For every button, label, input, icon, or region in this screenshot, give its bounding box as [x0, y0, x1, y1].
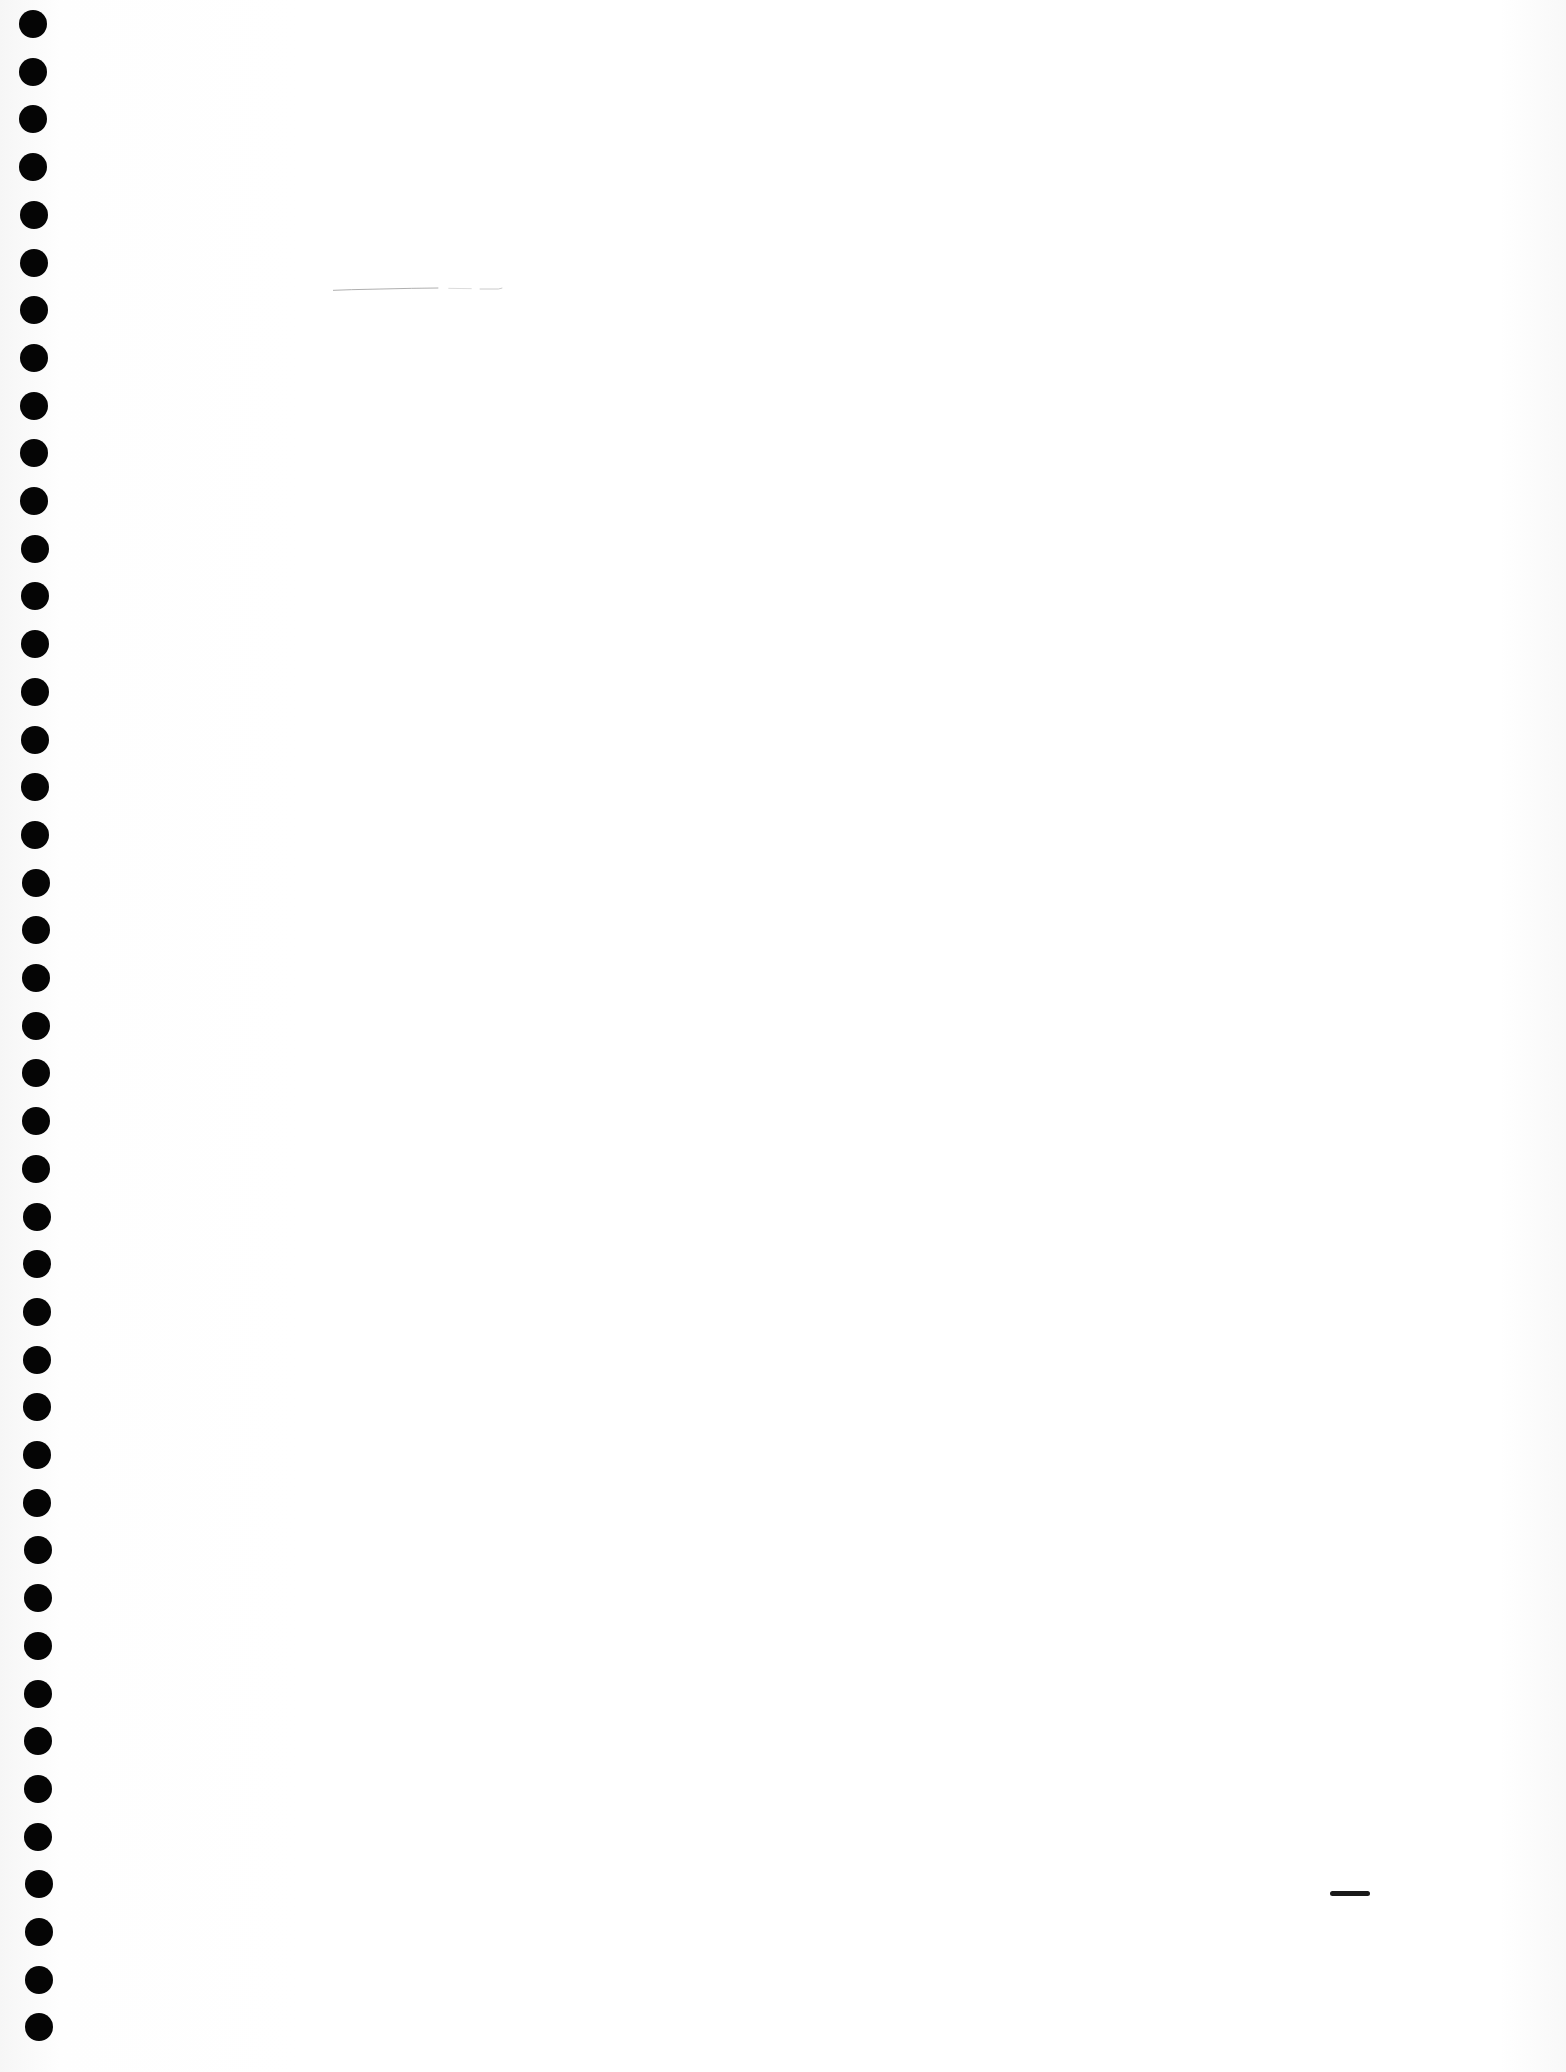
punch-hole: [19, 10, 47, 38]
punch-hole: [22, 1107, 50, 1135]
punch-hole: [22, 1155, 50, 1183]
punch-hole: [19, 58, 47, 86]
punch-hole: [22, 964, 50, 992]
pen-dash-mark: [1330, 1891, 1370, 1896]
punch-hole: [23, 1393, 51, 1421]
punch-hole: [22, 1059, 50, 1087]
punch-hole: [21, 582, 49, 610]
punch-hole: [19, 153, 47, 181]
pencil-stroke-mark: [285, 287, 565, 291]
punch-hole: [24, 1536, 52, 1564]
punch-hole: [20, 296, 48, 324]
notebook-page: [0, 0, 1566, 2072]
punch-hole: [25, 2013, 53, 2041]
punch-hole: [20, 249, 48, 277]
punch-hole: [21, 773, 49, 801]
punch-hole: [21, 726, 49, 754]
punch-hole: [24, 1823, 52, 1851]
punch-hole: [23, 1489, 51, 1517]
punch-hole: [25, 1918, 53, 1946]
punch-hole: [24, 1775, 52, 1803]
punch-hole: [22, 916, 50, 944]
punch-hole: [20, 392, 48, 420]
punch-hole: [23, 1203, 51, 1231]
punch-hole: [21, 630, 49, 658]
punch-hole: [21, 678, 49, 706]
punch-hole: [23, 1346, 51, 1374]
punch-hole: [23, 1441, 51, 1469]
punch-hole: [20, 439, 48, 467]
punch-hole: [25, 1966, 53, 1994]
punch-hole: [20, 201, 48, 229]
punch-hole: [25, 1870, 53, 1898]
punch-hole: [24, 1584, 52, 1612]
punch-hole: [23, 1298, 51, 1326]
punch-hole: [21, 535, 49, 563]
punch-hole: [20, 487, 48, 515]
punch-hole: [21, 821, 49, 849]
punch-hole: [24, 1727, 52, 1755]
punch-hole: [20, 344, 48, 372]
punch-hole: [22, 1012, 50, 1040]
punch-hole: [24, 1632, 52, 1660]
punch-hole: [24, 1680, 52, 1708]
punch-hole-column: [0, 0, 80, 2072]
punch-hole: [23, 1250, 51, 1278]
punch-hole: [19, 105, 47, 133]
punch-hole: [22, 869, 50, 897]
